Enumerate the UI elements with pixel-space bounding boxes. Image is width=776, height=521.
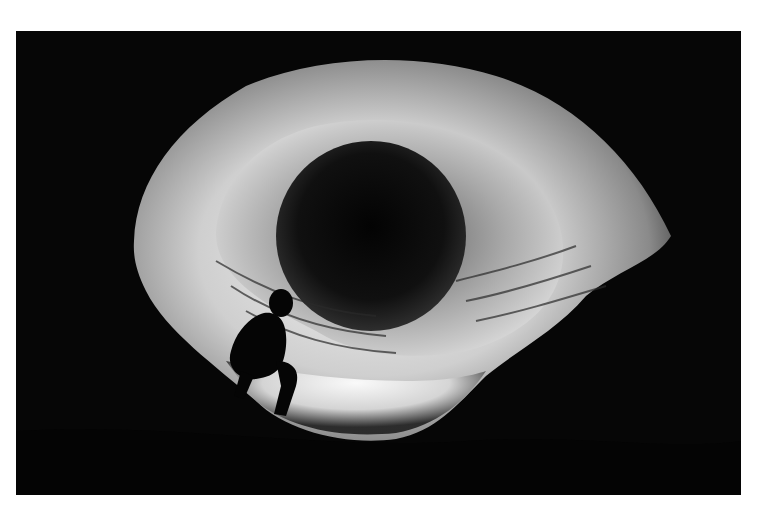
cave-photo	[16, 31, 741, 495]
cave-illustration	[16, 31, 741, 495]
